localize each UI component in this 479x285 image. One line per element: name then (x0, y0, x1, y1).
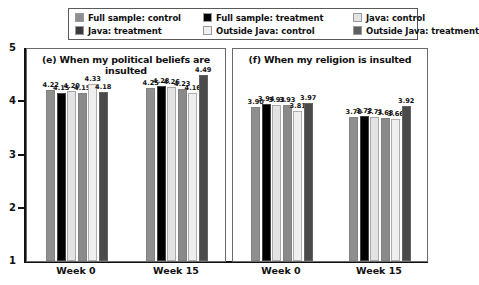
bar-column: 3.92 (402, 49, 411, 261)
bar (349, 117, 358, 261)
bar-column: 4.16 (188, 49, 197, 261)
bar-column: 4.18 (99, 49, 108, 261)
legend-outside-java-control: Outside Java: control (203, 26, 353, 36)
bar-group: 4.254.284.264.234.164.49 (146, 49, 208, 261)
bar-column: 3.70 (349, 49, 358, 261)
legend-full-sample-control: Full sample: control (75, 13, 203, 23)
bar-column: 4.49 (199, 49, 208, 261)
bar (46, 90, 55, 261)
bar-value-label: 4.18 (95, 83, 111, 91)
bar-column: 3.81 (293, 49, 302, 261)
y-axis-tick-label: 3 (2, 149, 16, 160)
legend-full-sample-treatment: Full sample: treatment (203, 13, 353, 23)
bar-group: 3.703.723.713.683.663.92 (349, 49, 411, 261)
bar (188, 93, 197, 261)
bar (370, 117, 379, 261)
bar (167, 87, 176, 261)
bar-group: 4.224.154.204.154.334.18 (46, 49, 108, 261)
bar (304, 103, 313, 261)
bar-column: 3.93 (272, 49, 281, 261)
legend-item-label: Java: treatment (88, 26, 162, 36)
legend-swatch-icon (353, 13, 362, 22)
legend-item-label: Outside Java: treatment (366, 26, 479, 36)
bar-column: 3.68 (381, 49, 390, 261)
bar-column: 3.66 (391, 49, 400, 261)
bar-column: 3.97 (304, 49, 313, 261)
bar (57, 93, 66, 261)
legend-outside-java-treatment: Outside Java: treatment (353, 26, 425, 36)
bar-column: 4.33 (88, 49, 97, 261)
bar-column: 3.93 (283, 49, 292, 261)
bar (251, 107, 260, 261)
bar (88, 84, 97, 261)
legend-swatch-icon (203, 26, 212, 35)
bar (402, 106, 411, 261)
bar-value-label: 3.97 (300, 94, 316, 102)
y-axis-tick-label: 1 (2, 255, 16, 266)
y-axis-tick-label: 2 (2, 202, 16, 213)
bar-column: 3.72 (360, 49, 369, 261)
y-axis-tick (18, 207, 24, 209)
bar (262, 104, 271, 261)
panel-political-beliefs: (e) When my political beliefs are insult… (26, 48, 226, 262)
bar (178, 89, 187, 261)
legend-swatch-icon (75, 26, 84, 35)
bar (199, 75, 208, 261)
bar (272, 105, 281, 261)
y-axis-tick-label: 5 (2, 42, 16, 53)
bar-column: 4.23 (178, 49, 187, 261)
x-axis-category-label: Week 0 (241, 265, 321, 276)
x-axis-category-label: Week 15 (339, 265, 419, 276)
bar (293, 111, 302, 261)
legend-swatch-icon (353, 26, 362, 35)
bar-column: 3.90 (251, 49, 260, 261)
bar (67, 91, 76, 261)
bar (391, 119, 400, 261)
bar-value-label: 3.92 (398, 97, 414, 105)
bar (157, 86, 166, 261)
bar (78, 93, 87, 261)
legend-item-label: Java: control (366, 13, 425, 23)
y-axis-tick-label: 4 (2, 95, 16, 106)
y-axis-tick (18, 154, 24, 156)
bar-column: 4.20 (67, 49, 76, 261)
legend-swatch-icon (75, 13, 84, 22)
bar (360, 116, 369, 261)
legend-item-label: Full sample: treatment (216, 13, 323, 23)
bar (381, 118, 390, 261)
bar-value-label: 4.49 (195, 66, 211, 74)
bar-column: 3.71 (370, 49, 379, 261)
legend-swatch-icon (203, 13, 212, 22)
legend-item-label: Outside Java: control (216, 26, 315, 36)
legend-java-treatment: Java: treatment (75, 26, 203, 36)
bar-column: 3.94 (262, 49, 271, 261)
panel-religion: (f) When my religion is insulted 3.903.9… (232, 48, 428, 262)
y-axis-tick (18, 100, 24, 102)
bar (283, 105, 292, 261)
bar (99, 92, 108, 261)
legend-java-control: Java: control (353, 13, 425, 23)
bar (146, 88, 155, 261)
bar-group: 3.903.943.933.933.813.97 (251, 49, 313, 261)
x-axis-category-label: Week 0 (36, 265, 116, 276)
bar-column: 4.22 (46, 49, 55, 261)
legend-item-label: Full sample: control (88, 13, 181, 23)
chart-legend: Full sample: controlFull sample: treatme… (68, 8, 418, 40)
x-axis-category-label: Week 15 (136, 265, 216, 276)
